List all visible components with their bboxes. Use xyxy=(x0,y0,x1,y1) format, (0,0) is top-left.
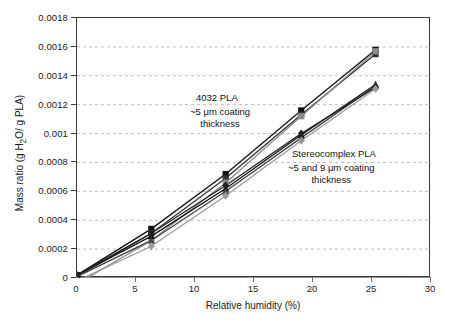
y-tick-mark xyxy=(71,75,76,76)
y-tick-mark xyxy=(71,219,76,220)
y-tick-label: 0.0018 xyxy=(38,12,68,23)
x-tick-mark xyxy=(253,277,254,282)
y-axis-label: Mass ratio (g H2O/ g PLA) xyxy=(14,58,28,248)
y-tick-label: 0.0014 xyxy=(38,69,68,80)
y-tick-label: 0.0012 xyxy=(38,98,68,109)
x-tick-mark xyxy=(312,277,313,282)
x-tick-label: 25 xyxy=(366,283,377,294)
annotation-line-1: ~5 μm coating xyxy=(190,106,250,118)
y-tick-label: 0.0004 xyxy=(38,214,68,225)
y-tick-mark xyxy=(71,190,76,191)
y-tick-mark xyxy=(71,104,76,105)
x-tick-mark xyxy=(430,277,431,282)
y-tick-label: 0 xyxy=(63,272,68,283)
x-tick-mark xyxy=(194,277,195,282)
y-tick-mark xyxy=(71,46,76,47)
chart-figure: 00.00020.00040.00060.00080.0010.00120.00… xyxy=(0,0,450,331)
x-tick-label: 30 xyxy=(425,283,436,294)
annotation-stereocomplex-pla-thickness: ~5 and 9 μm coating thickness xyxy=(288,162,375,185)
annotation-4032-pla-thickness: ~5 μm coating thickness xyxy=(190,106,250,129)
data-point-marker xyxy=(298,113,304,119)
x-tick-label: 5 xyxy=(132,283,137,294)
y-tick-mark xyxy=(71,277,76,278)
y-tick-label: 0.0006 xyxy=(38,185,68,196)
annotation-line-2: thickness xyxy=(190,118,250,130)
y-tick-mark xyxy=(71,248,76,249)
y-tick-label: 0.0008 xyxy=(38,156,68,167)
x-tick-label: 20 xyxy=(307,283,318,294)
y-tick-label: 0.0002 xyxy=(38,243,68,254)
annotation-line-2: thickness xyxy=(288,174,375,186)
x-tick-label: 0 xyxy=(73,283,78,294)
y-tick-mark xyxy=(71,161,76,162)
x-tick-mark xyxy=(371,277,372,282)
x-tick-label: 10 xyxy=(189,283,200,294)
y-tick-mark xyxy=(71,17,76,18)
x-tick-mark xyxy=(135,277,136,282)
annotation-4032-pla: 4032 PLA xyxy=(196,92,238,104)
data-series-group xyxy=(77,18,431,278)
y-tick-label: 0.0016 xyxy=(38,40,68,51)
annotation-line-1: ~5 and 9 μm coating xyxy=(288,162,375,174)
x-tick-label: 15 xyxy=(248,283,259,294)
plot-area xyxy=(76,17,430,277)
y-tick-mark xyxy=(71,133,76,134)
data-point-marker xyxy=(372,48,378,54)
annotation-stereocomplex-pla: Stereocomplex PLA xyxy=(292,148,376,160)
y-tick-label: 0.001 xyxy=(44,127,68,138)
x-axis-label: Relative humidity (%) xyxy=(76,300,430,311)
